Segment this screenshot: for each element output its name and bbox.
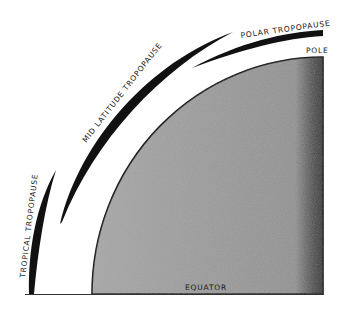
tropopause-diagram: TROPICAL TROPOPAUSE MID LATITUDE TROPOPA… — [0, 0, 341, 311]
label-equator: EQUATOR — [185, 283, 227, 292]
label-pole: POLE — [306, 46, 329, 55]
label-mid-latitude-tropopause: MID LATITUDE TROPOPAUSE — [80, 41, 164, 144]
